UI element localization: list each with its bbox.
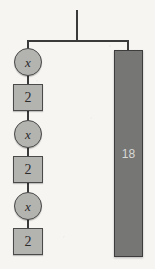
chain-node-label: x	[25, 128, 31, 141]
chain-node-label: x	[25, 56, 31, 69]
chain-node-label: 2	[25, 91, 32, 105]
right-bar-label: 18	[115, 147, 142, 161]
chain-node-square-2-1[interactable]: 2	[13, 84, 43, 111]
connector-horizontal-bar	[27, 40, 129, 42]
chain-node-circle-x-3[interactable]: x	[14, 192, 42, 220]
tape-diagram: x 2 x 2 x 2 18	[0, 0, 155, 269]
chain-node-label: 2	[25, 235, 32, 249]
chain-node-square-2-3[interactable]: 2	[13, 228, 43, 255]
connector-stem	[76, 10, 78, 41]
chain-node-label: x	[25, 200, 31, 213]
chain-node-label: 2	[25, 163, 32, 177]
right-bar[interactable]: 18	[114, 50, 143, 257]
chain-node-circle-x-1[interactable]: x	[14, 48, 42, 76]
chain-node-square-2-2[interactable]: 2	[13, 156, 43, 183]
chain-node-circle-x-2[interactable]: x	[14, 120, 42, 148]
